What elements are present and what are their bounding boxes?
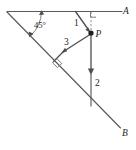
- vector-3-label: 3: [64, 37, 69, 47]
- point-p-label: P: [95, 29, 102, 39]
- vector-diagram: 45° 1 3 2 P A B: [0, 0, 136, 150]
- angle-label: 45°: [34, 20, 47, 30]
- point-p-dot: [88, 30, 93, 35]
- incline-ray-line: [7, 12, 121, 128]
- ray-b-label: B: [122, 128, 128, 138]
- ray-a-label: A: [122, 6, 129, 16]
- vector-2-label: 2: [95, 78, 100, 88]
- geometry-figure: 45° 1 3 2 P A B: [0, 0, 136, 150]
- angle-arc-arrowhead-top: [39, 10, 44, 15]
- vector-1-label: 1: [74, 18, 79, 28]
